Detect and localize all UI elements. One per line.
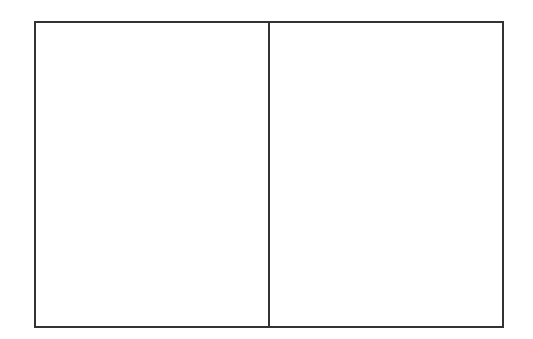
- right-panel: [270, 23, 502, 326]
- diagram-frame: [34, 21, 504, 328]
- left-panel: [36, 23, 270, 326]
